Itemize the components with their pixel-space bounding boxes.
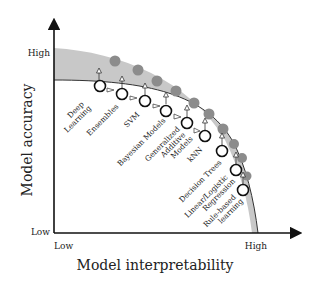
label-svm: SVM (122, 110, 141, 129)
marker-ensembles (117, 89, 128, 100)
label-knn: kNN (186, 145, 205, 164)
y-low-label: Low (31, 227, 50, 237)
marker-svm (140, 96, 151, 107)
y-axis-title: Model accuracy (19, 84, 35, 197)
marker-gam (182, 118, 193, 129)
x-low-label: Low (54, 241, 73, 251)
y-high-label: High (28, 48, 50, 58)
marker-bayesian (161, 106, 172, 117)
marker-knn (200, 131, 211, 142)
marker-rule-based (238, 185, 249, 196)
x-axis-title: Model interpretability (77, 257, 234, 273)
marker-deep-learning (95, 81, 106, 92)
tradeoff-diagram: Deep Learning Ensembles SVM Bayesian Mod… (0, 0, 315, 281)
marker-decision-trees (217, 146, 228, 157)
marker-linear-logistic (231, 165, 242, 176)
x-high-label: High (245, 241, 267, 251)
